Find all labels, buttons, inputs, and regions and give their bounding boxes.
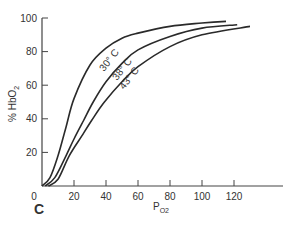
x-tick-label: 20 (68, 191, 80, 202)
axes: 20406080100020406080100120 (20, 13, 283, 203)
x-tick-label: 40 (100, 191, 112, 202)
x-tick-label: 80 (164, 191, 176, 202)
curve-38c (45, 25, 237, 186)
curve-30c (42, 21, 226, 186)
y-axis-label: % HbO2 (7, 86, 20, 122)
curve-43c (48, 26, 250, 186)
panel-label: C (34, 201, 44, 217)
y-axis-label-sub: 2 (13, 86, 20, 90)
y-tick-label: 20 (26, 147, 38, 158)
curves (42, 21, 250, 186)
x-tick-label: 60 (132, 191, 144, 202)
oxygen-dissociation-chart: 20406080100020406080100120 30° C38° C43°… (0, 0, 296, 227)
y-tick-label: 60 (26, 80, 38, 91)
y-tick-label: 80 (26, 46, 38, 57)
y-tick-label: 100 (20, 13, 37, 24)
x-axis-label-sub: O2 (160, 207, 169, 214)
x-tick-label: 100 (194, 191, 211, 202)
x-tick-label: 120 (226, 191, 243, 202)
x-axis-label: PO2 (153, 201, 169, 214)
y-tick-label: 40 (26, 113, 38, 124)
y-axis-label-main: % HbO (7, 90, 18, 122)
chart-svg: 20406080100020406080100120 30° C38° C43°… (0, 0, 296, 227)
